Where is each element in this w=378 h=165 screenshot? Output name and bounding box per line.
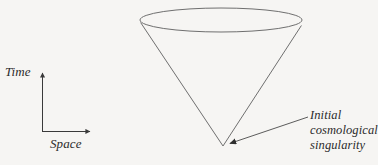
singularity-leader-line	[230, 117, 308, 143]
space-axis-label: Space	[50, 136, 82, 151]
cone-right-edge	[223, 26, 301, 147]
annotation-line-1: Initial	[310, 108, 378, 123]
annotation-line-2: cosmological	[310, 123, 378, 138]
time-axis-label: Time	[5, 64, 31, 79]
cone-left-edge	[141, 23, 223, 147]
annotation-line-3: singularity	[310, 138, 378, 153]
cone-top-ellipse	[140, 8, 302, 32]
singularity-annotation-text: Initial cosmological singularity	[310, 108, 378, 152]
